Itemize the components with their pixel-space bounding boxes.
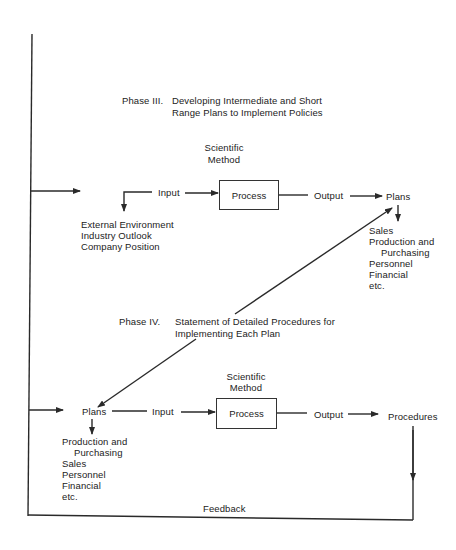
phase4-output-label: Output <box>314 409 343 420</box>
arrow-diagonal-down <box>98 339 196 407</box>
phase3-method-line2: Method <box>198 154 250 165</box>
phase4-plan-item: Production and <box>62 436 127 447</box>
phase4-procedures-label: Procedures <box>388 411 438 422</box>
phase4-method-line1: Scientific <box>220 371 272 382</box>
phase3-plan-item: etc. <box>369 280 385 291</box>
phase3-input-label: Input <box>158 187 180 198</box>
phase4-process-box: Process <box>216 398 277 429</box>
phase4-process-label: Process <box>229 408 263 419</box>
phase4-title-line1: Statement of Detailed Procedures for <box>175 316 335 327</box>
phase3-process-label: Process <box>232 190 266 201</box>
feedback-left-line <box>28 34 32 516</box>
phase3-title-line1: Developing Intermediate and Short <box>172 95 322 106</box>
phase4-plan-item: Purchasing <box>62 447 123 458</box>
phase4-plan-item: etc. <box>62 491 78 502</box>
phase4-input-label: Input <box>152 406 174 417</box>
phase3-source-external: External Environment <box>81 219 174 230</box>
phase4-plan-item: Financial <box>62 480 101 491</box>
phase4-plan-item: Personnel <box>62 469 106 480</box>
phase3-plan-item: Purchasing <box>369 247 430 258</box>
phase3-process-box: Process <box>219 180 279 210</box>
feedback-label: Feedback <box>203 503 246 514</box>
phase3-output-label: Output <box>314 190 343 201</box>
phase3-plan-item: Financial <box>369 269 408 280</box>
phase3-plan-item: Sales <box>369 225 393 236</box>
phase3-title-line2: Range Plans to Implement Policies <box>172 107 323 118</box>
phase3-plan-item: Production and <box>369 236 434 247</box>
arrow-input-to-sources <box>124 192 152 211</box>
feedback-bottom-line <box>28 515 413 520</box>
phase3-label: Phase III. <box>122 95 163 106</box>
phase3-source-company: Company Position <box>81 241 160 252</box>
phase3-plan-item: Personnel <box>369 258 413 269</box>
phase4-title-line2: Implementing Each Plan <box>175 328 280 339</box>
phase4-method-line2: Method <box>220 382 272 393</box>
phase4-label: Phase IV. <box>119 316 160 327</box>
phase3-plans-label: Plans <box>386 191 410 202</box>
phase3-method-line1: Scientific <box>198 142 250 153</box>
phase3-source-industry: Industry Outlook <box>81 230 152 241</box>
phase4-plan-item: Sales <box>62 458 86 469</box>
phase4-plans-label: Plans <box>82 406 106 417</box>
flow-diagram: Phase III. Developing Intermediate and S… <box>0 0 456 550</box>
